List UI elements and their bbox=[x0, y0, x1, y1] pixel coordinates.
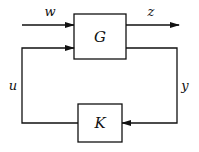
signal-u-label: u bbox=[9, 78, 17, 93]
block-g-label: G bbox=[94, 28, 106, 46]
u-control-path bbox=[22, 48, 78, 123]
signal-y-label: y bbox=[180, 78, 189, 93]
y-feedback-path bbox=[122, 48, 177, 123]
signal-w-label: w bbox=[44, 4, 55, 19]
block-diagram: G K w z u y bbox=[0, 0, 199, 152]
signal-z-label: z bbox=[147, 4, 155, 19]
block-k-label: K bbox=[93, 114, 106, 132]
